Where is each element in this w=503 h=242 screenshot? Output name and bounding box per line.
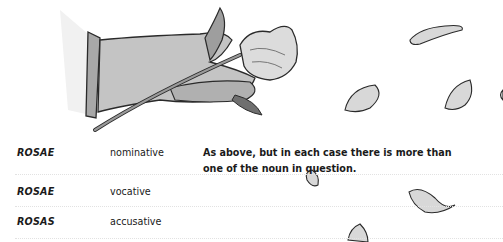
- petal-6: [348, 224, 368, 242]
- petal-2: [410, 26, 462, 45]
- row-divider: [15, 238, 503, 239]
- latin-word: ROSAS: [17, 216, 55, 227]
- latin-word: ROSAE: [17, 147, 54, 158]
- latin-word: ROSAE: [17, 186, 54, 197]
- row-divider: [15, 206, 503, 207]
- case-name: accusative: [110, 216, 161, 227]
- petal-3: [445, 80, 472, 109]
- case-description: As above, but in each case there is more…: [203, 145, 453, 177]
- petal-1: [345, 85, 379, 112]
- row-divider: [15, 174, 503, 175]
- case-name: nominative: [110, 147, 164, 158]
- falling-petals: [306, 26, 503, 242]
- case-name: vocative: [110, 186, 151, 197]
- rose-bloom-shape: [240, 26, 297, 80]
- petal-5: [409, 190, 455, 213]
